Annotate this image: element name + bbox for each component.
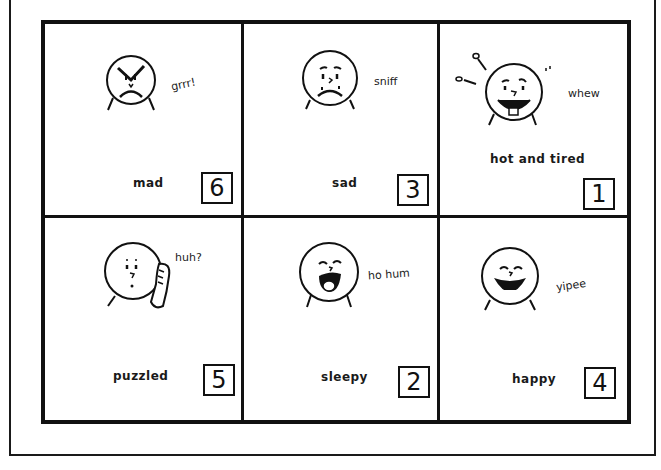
emotion-label: mad [133,176,164,190]
puzzled-face-icon [101,240,181,320]
happy-face-icon [480,246,544,316]
sad-face-icon [300,50,364,120]
card-hot-and-tired: whew hot and tired 1 [440,24,627,218]
number-box: 2 [398,366,430,398]
emotion-label: sleepy [321,370,368,384]
sleepy-face-icon [297,240,361,310]
card-puzzled: huh? puzzled 5 [45,218,244,420]
angry-face-icon [101,52,165,122]
number-box: 6 [201,172,233,204]
card-happy: yipee happy 4 [440,218,627,420]
card-sad: sniff sad 3 [244,24,440,218]
number-box: 5 [203,364,235,396]
sound-text: ho hum [368,267,411,283]
number-box: 4 [584,367,616,399]
sound-text: sniff [374,75,397,88]
sound-text: whew [568,87,600,100]
emotion-label: happy [512,372,556,386]
emotion-label: sad [332,176,357,190]
hot-tired-face-icon [454,50,564,130]
sound-text: huh? [175,251,202,264]
emotion-card-grid: grrr! mad 6 sniff sad 3 [41,20,631,424]
card-sleepy: ho hum sleepy 2 [244,218,440,420]
sound-text: grrr! [170,76,197,94]
number-box: 3 [397,174,429,206]
emotion-label: hot and tired [490,152,585,166]
number-box: 1 [583,178,615,210]
sound-text: yipee [555,277,587,294]
emotion-label: puzzled [113,369,168,383]
card-mad: grrr! mad 6 [45,24,244,218]
